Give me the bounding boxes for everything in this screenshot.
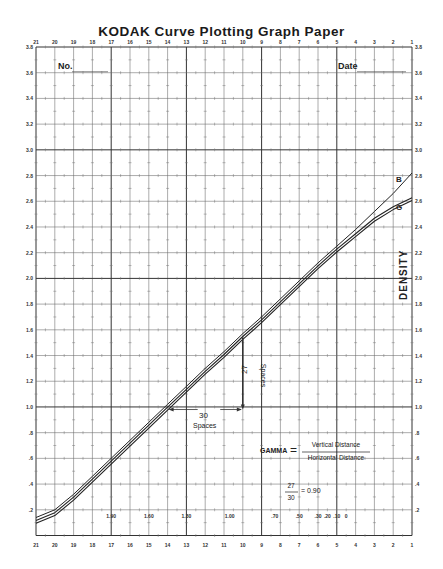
top-tick-label: 4 xyxy=(354,39,357,45)
top-tick-label: 14 xyxy=(165,39,171,45)
bottom-tick-label: 16 xyxy=(127,542,133,548)
left-tick-label: 1.0 xyxy=(26,404,33,410)
inner-scale-label: 1.00 xyxy=(225,513,235,519)
inner-scale-label: .70 xyxy=(271,513,278,519)
left-tick-label: 1.8 xyxy=(26,301,33,307)
right-tick-label: 3.6 xyxy=(415,70,422,76)
example-result: = 0.90 xyxy=(301,487,321,494)
bottom-tick-label: 6 xyxy=(317,542,320,548)
right-tick-label: 1.4 xyxy=(415,353,422,359)
horizontal-count: 30 xyxy=(199,411,208,420)
bottom-tick-label: 5 xyxy=(335,542,338,548)
top-tick-label: 17 xyxy=(108,39,114,45)
right-tick-label: .4 xyxy=(415,481,419,487)
date-field-label: Date xyxy=(338,61,358,71)
bottom-tick-label: 3 xyxy=(373,542,376,548)
gamma-label: GAMMA xyxy=(260,447,287,454)
right-tick-label: 1.2 xyxy=(415,378,422,384)
vertical-unit: Spaces xyxy=(260,364,267,387)
vertical-count: 27 xyxy=(240,365,249,374)
left-tick-label: 2.2 xyxy=(26,250,33,256)
right-tick-label: 1.8 xyxy=(415,301,422,307)
right-tick-label: 2.6 xyxy=(415,198,422,204)
inner-scale-label: .20 xyxy=(324,513,331,519)
right-tick-label: 2.4 xyxy=(415,224,422,230)
bottom-tick-label: 4 xyxy=(354,542,357,548)
top-tick-label: 2 xyxy=(392,39,395,45)
top-tick-label: 5 xyxy=(335,39,338,45)
bottom-tick-label: 19 xyxy=(71,542,77,548)
example-denominator: 30 xyxy=(284,494,298,501)
left-tick-label: 2.4 xyxy=(26,224,33,230)
right-tick-label: 3.4 xyxy=(415,95,422,101)
top-tick-label: 16 xyxy=(127,39,133,45)
bottom-tick-label: 12 xyxy=(202,542,208,548)
bottom-tick-label: 17 xyxy=(108,542,114,548)
top-tick-label: 13 xyxy=(184,39,190,45)
inner-scale-label: 1.90 xyxy=(106,513,116,519)
left-tick-label: 2.8 xyxy=(26,173,33,179)
bottom-tick-label: 14 xyxy=(165,542,171,548)
right-tick-label: .6 xyxy=(415,455,419,461)
right-tick-label: 2.0 xyxy=(415,275,422,281)
bottom-tick-label: 20 xyxy=(52,542,58,548)
inner-scale-label: 1.60 xyxy=(144,513,154,519)
left-tick-label: 2.6 xyxy=(26,198,33,204)
gamma-denominator: Horizontal Distance xyxy=(302,454,370,461)
right-tick-label: .2 xyxy=(415,507,419,513)
bottom-tick-label: 8 xyxy=(279,542,282,548)
left-tick-label: 3.4 xyxy=(26,95,33,101)
top-tick-label: 19 xyxy=(71,39,77,45)
right-tick-label: 3.2 xyxy=(415,121,422,127)
bottom-tick-label: 2 xyxy=(392,542,395,548)
left-tick-label: 1.4 xyxy=(26,353,33,359)
inner-scale-label: .10 xyxy=(333,513,340,519)
left-tick-label: 3.6 xyxy=(26,70,33,76)
top-tick-label: 6 xyxy=(317,39,320,45)
left-tick-label: .2 xyxy=(29,507,33,513)
top-tick-label: 1 xyxy=(411,39,414,45)
bottom-tick-label: 21 xyxy=(33,542,39,548)
bottom-tick-label: 18 xyxy=(90,542,96,548)
bottom-tick-label: 15 xyxy=(146,542,152,548)
arrowhead-icon xyxy=(237,408,242,412)
right-tick-label: 1.0 xyxy=(415,404,422,410)
number-field-label: No. xyxy=(58,61,73,71)
left-tick-label: 1.2 xyxy=(26,378,33,384)
bottom-tick-label: 9 xyxy=(260,542,263,548)
inner-scale-label: 0 xyxy=(345,513,348,519)
top-tick-label: 3 xyxy=(373,39,376,45)
example-numerator: 27 xyxy=(284,482,298,489)
left-tick-label: .8 xyxy=(29,430,33,436)
right-tick-label: 2.8 xyxy=(415,173,422,179)
bottom-tick-label: 10 xyxy=(240,542,246,548)
right-tick-label: .8 xyxy=(415,430,419,436)
left-tick-label: 3.8 xyxy=(26,44,33,50)
top-tick-label: 7 xyxy=(298,39,301,45)
left-tick-label: 1.6 xyxy=(26,327,33,333)
top-tick-label: 11 xyxy=(221,39,226,45)
inner-scale-label: 1.30 xyxy=(182,513,192,519)
top-tick-label: 20 xyxy=(52,39,58,45)
left-tick-label: 3.0 xyxy=(26,147,33,153)
top-tick-label: 21 xyxy=(33,39,39,45)
left-tick-label: .6 xyxy=(29,455,33,461)
right-tick-label: 2.2 xyxy=(415,250,422,256)
left-tick-label: 3.2 xyxy=(26,121,33,127)
inner-scale-label: .30 xyxy=(315,513,322,519)
right-tick-label: 3.8 xyxy=(415,44,422,50)
density-axis-label: DENSITY xyxy=(398,250,409,300)
graph-grid xyxy=(0,0,443,569)
bottom-tick-label: 13 xyxy=(184,542,190,548)
bottom-tick-label: 1 xyxy=(411,542,414,548)
gamma-equals: = xyxy=(290,443,297,457)
right-tick-label: 3.0 xyxy=(415,147,422,153)
horizontal-unit: Spaces xyxy=(193,422,216,429)
left-tick-label: .4 xyxy=(29,481,33,487)
top-tick-label: 18 xyxy=(90,39,96,45)
left-tick-label: 2.0 xyxy=(26,275,33,281)
bottom-tick-label: 11 xyxy=(221,542,226,548)
gamma-numerator: Vertical Distance xyxy=(302,441,370,448)
inner-scale-label: .50 xyxy=(296,513,303,519)
top-tick-label: 9 xyxy=(260,39,263,45)
